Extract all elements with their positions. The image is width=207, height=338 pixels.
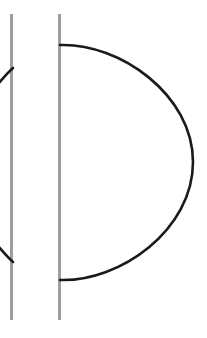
diagram-canvas: [0, 0, 207, 338]
arc-diagram-figure: [0, 0, 207, 338]
canvas-background: [0, 0, 207, 338]
